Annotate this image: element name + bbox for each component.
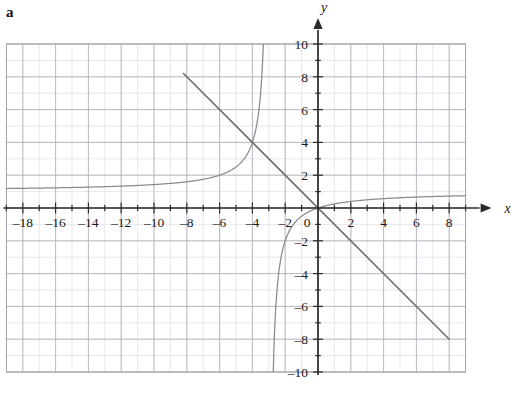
x-tick-label: –8 [179, 215, 194, 230]
rational-curve-right-branch [273, 196, 465, 378]
x-tick-label: 8 [446, 215, 453, 230]
graph-plot: –18–16–14–12–10–8–6–4–22468 108642–2–4–6… [0, 0, 524, 394]
x-tick-label: –6 [212, 215, 227, 230]
y-tick-label: 8 [301, 70, 308, 85]
y-tick-label: 2 [301, 168, 308, 183]
origin-label: 0 [304, 215, 311, 230]
x-tick-label: –10 [143, 215, 165, 230]
y-tick-label: –6 [294, 299, 309, 314]
x-tick-label: –18 [12, 215, 34, 230]
x-tick-label: –4 [245, 215, 260, 230]
y-tick-label: 4 [301, 135, 308, 150]
y-tick-label: –2 [294, 234, 309, 249]
x-tick-label: 4 [380, 215, 387, 230]
x-tick-label: 2 [347, 215, 354, 230]
y-axis-arrow-icon [313, 18, 322, 29]
straight-line [184, 74, 450, 340]
rational-curve-left-branch [6, 36, 263, 189]
y-tick-label: –4 [294, 267, 309, 282]
y-tick-label: 10 [295, 37, 309, 52]
y-axis-label: y [319, 0, 328, 15]
y-tick-label: –8 [294, 332, 309, 347]
straight-line-segment [184, 74, 450, 340]
y-tick-label: –10 [287, 365, 309, 380]
x-tick-label: –12 [110, 215, 131, 230]
figure-root: a –18–16–14–12–10–8–6–4–22468 108642 [0, 0, 524, 394]
x-tick-label: 6 [413, 215, 420, 230]
x-axis-label: x [503, 201, 511, 216]
x-tick-label: –2 [277, 215, 292, 230]
x-axis-tick-labels: –18–16–14–12–10–8–6–4–22468 [12, 215, 453, 230]
y-tick-label: 6 [301, 103, 308, 118]
x-axis-arrow-icon [481, 203, 492, 212]
x-tick-label: –16 [44, 215, 66, 230]
x-tick-label: –14 [77, 215, 99, 230]
